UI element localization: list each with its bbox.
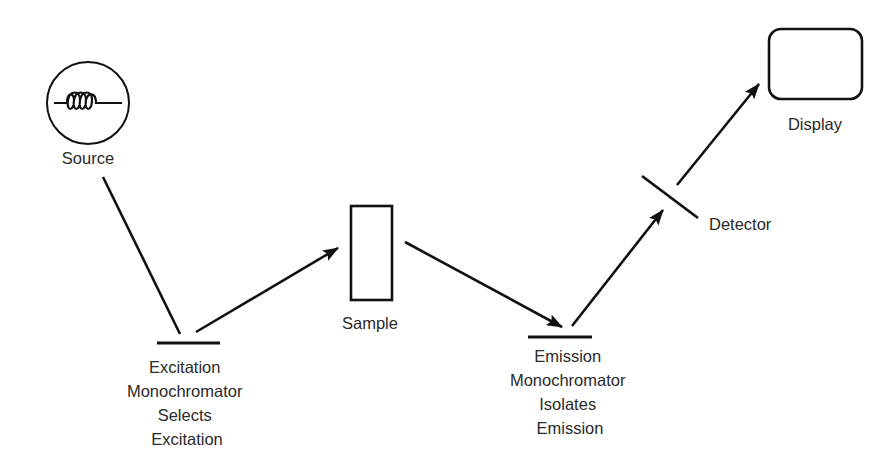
sample-label: Sample	[342, 314, 398, 332]
display-screen-icon	[769, 29, 862, 99]
excitation-monochromator-node: Excitation Monochromator Selects Excitat…	[127, 343, 247, 448]
edge-detector-to-display	[677, 84, 759, 185]
detector-label: Detector	[709, 215, 772, 233]
edge-emission-to-detector	[572, 210, 663, 326]
edge-excitation-to-sample[interactable]	[196, 248, 338, 332]
cuvette-rectangle-icon	[351, 206, 392, 300]
display-node: Display	[769, 29, 862, 133]
source-label: Source	[62, 149, 114, 167]
lamp-filament-coil-icon	[47, 62, 129, 144]
fluorescence-instrument-diagram: Source Excitation Monochromator Selects …	[0, 0, 891, 471]
sample-node: Sample	[342, 206, 398, 332]
source-node: Source	[47, 62, 129, 167]
emission-monochromator-node: Emission Monochromator Isolates Emission	[510, 337, 630, 437]
display-label: Display	[788, 115, 843, 133]
detector-node: Detector	[642, 176, 772, 233]
detector-plate-icon	[642, 176, 698, 218]
emission-monochromator-label: Emission Monochromator Isolates Emission	[510, 347, 630, 437]
edge-source-to-excitation	[103, 177, 180, 334]
edge-sample-to-emission	[405, 242, 562, 327]
excitation-monochromator-label: Excitation Monochromator Selects Excitat…	[127, 358, 247, 448]
